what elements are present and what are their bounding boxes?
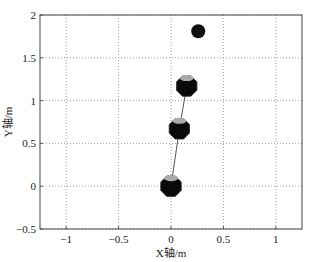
chart: −1−0.500.51−0.500.511.52X轴/mY轴/m — [0, 0, 311, 262]
y-axis-label: Y轴/m — [1, 106, 14, 137]
joint-highlight — [180, 75, 194, 81]
joint-highlight — [172, 118, 186, 124]
x-tick-label: 1 — [273, 233, 279, 245]
y-tick-label: 0 — [31, 180, 37, 192]
x-tick-label: 0 — [168, 233, 174, 245]
joint-highlight — [164, 175, 178, 181]
x-tick-label: 0.5 — [217, 233, 231, 245]
target-marker — [191, 24, 205, 38]
y-tick-label: 1.5 — [22, 52, 36, 64]
x-axis-label: X轴/m — [156, 246, 187, 259]
axes-box — [40, 15, 302, 229]
x-tick-label: −0.5 — [109, 233, 129, 245]
x-tick-label: −1 — [60, 233, 72, 245]
y-tick-label: 2 — [31, 9, 37, 21]
y-tick-label: −0.5 — [16, 223, 36, 235]
y-tick-label: 1 — [31, 95, 37, 107]
y-tick-label: 0.5 — [22, 137, 36, 149]
